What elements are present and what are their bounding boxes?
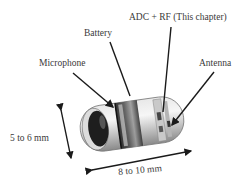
microphone-leader-line <box>73 73 113 107</box>
device-diagram <box>0 0 248 188</box>
battery-leader-line <box>110 42 130 96</box>
antenna-leader-line <box>172 72 214 125</box>
height-dimension-arrow <box>61 110 71 158</box>
capsule-device <box>77 94 186 154</box>
length-dimension-arrow <box>92 151 191 170</box>
